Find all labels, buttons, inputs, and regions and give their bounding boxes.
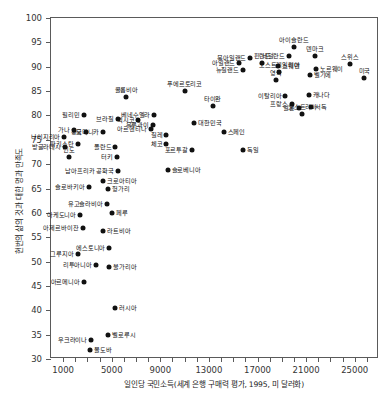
data-point — [93, 262, 98, 267]
data-point — [113, 305, 118, 310]
x-tick-label: 9000 — [150, 365, 172, 375]
point-label: 벨기에 — [314, 72, 332, 78]
x-axis-title: 일인당 국민소득(세계 은행 구매력 평가, 1995, 미 달러화) — [124, 378, 304, 389]
point-label: 체코 — [151, 141, 163, 147]
point-label: 베네수엘라 — [121, 112, 150, 118]
x-tick — [343, 357, 344, 362]
y-tick — [46, 262, 51, 263]
chart-root: 현번의 삶의 것과 대한 명과 만족도 일인당 국민소득(세계 은행 구매력 평… — [0, 0, 391, 403]
point-label: 푸에르토리코 — [167, 81, 202, 87]
point-label: 뉴질랜드 — [216, 67, 239, 73]
x-tick — [221, 357, 222, 362]
x-tick — [197, 357, 198, 362]
point-label: 캐나다 — [313, 92, 331, 98]
point-label: 아르메니아 — [51, 279, 80, 285]
x-tick — [160, 357, 161, 362]
point-label: 에스토니아 — [76, 245, 105, 251]
point-label: 영국 — [270, 70, 282, 76]
data-point — [107, 265, 112, 270]
x-tick — [233, 357, 234, 362]
data-point — [300, 112, 305, 117]
x-tick — [318, 357, 319, 362]
point-label: 미국 — [359, 68, 371, 74]
y-tick-label: 30 — [31, 354, 42, 364]
point-label: 우루과이 — [126, 122, 149, 128]
data-point — [81, 113, 86, 118]
data-point — [347, 62, 352, 67]
data-point — [283, 93, 288, 98]
y-tick-label: 85 — [31, 86, 42, 96]
data-point — [362, 76, 367, 81]
y-tick-label: 100 — [26, 13, 42, 23]
x-tick-label: 17000 — [244, 365, 271, 375]
point-label: 폴란드 — [94, 144, 112, 150]
point-label: 독일 — [247, 146, 259, 152]
point-label: 유고슬라비아 — [68, 201, 103, 207]
x-tick — [124, 357, 125, 362]
y-tick-label: 45 — [31, 281, 42, 291]
point-label: 필리민 — [62, 112, 80, 118]
y-tick-label: 80 — [31, 110, 42, 120]
data-point — [152, 113, 157, 118]
y-tick — [46, 359, 51, 360]
x-tick — [185, 357, 186, 362]
data-point — [164, 132, 169, 137]
x-tick — [63, 357, 64, 362]
point-label: 덴마크 — [306, 46, 324, 52]
point-label: 라트비아 — [107, 228, 130, 234]
data-point — [80, 226, 85, 231]
point-label: 벨로루시 — [112, 332, 135, 338]
point-label: 터키 — [101, 154, 113, 160]
x-tick — [270, 357, 271, 362]
x-tick-label: 5000 — [101, 365, 123, 375]
point-label: 도미니카 — [76, 128, 99, 134]
data-point — [306, 92, 311, 97]
y-tick-label: 55 — [31, 232, 42, 242]
data-point — [124, 95, 129, 100]
x-tick — [75, 357, 76, 362]
y-axis-title: 현번의 삶의 것과 대한 명과 만족도 — [13, 148, 24, 254]
data-point — [114, 154, 119, 159]
data-point — [75, 252, 80, 257]
x-tick — [367, 357, 368, 362]
point-label: 리투아니아 — [63, 262, 92, 268]
x-tick — [112, 357, 113, 362]
data-point — [189, 147, 194, 152]
data-point — [104, 202, 109, 207]
data-point — [291, 45, 296, 50]
point-label: 슬로바키아 — [55, 184, 84, 190]
point-label: 헝가리 — [112, 186, 130, 192]
point-label: 그루지아 — [50, 251, 73, 257]
point-label: 인도 — [63, 147, 75, 153]
x-tick — [245, 357, 246, 362]
data-point — [101, 129, 106, 134]
y-tick — [46, 115, 51, 116]
y-tick — [46, 67, 51, 68]
y-tick — [46, 18, 51, 19]
y-tick — [46, 42, 51, 43]
data-point — [87, 348, 92, 353]
point-label: 칠레 — [151, 132, 163, 138]
x-tick — [306, 357, 307, 362]
point-label: 오스트리아 — [288, 104, 317, 110]
y-tick-label: 60 — [31, 208, 42, 218]
point-label: 아이슬란드 — [279, 37, 308, 43]
data-point — [210, 103, 215, 108]
point-label: 크로아티아 — [107, 178, 136, 184]
data-point — [78, 212, 83, 217]
plot-area: 1009590858075706560555045403530 10005000… — [50, 17, 378, 358]
data-point — [307, 72, 312, 77]
x-tick — [282, 357, 283, 362]
x-tick — [330, 357, 331, 362]
y-tick — [46, 91, 51, 92]
y-tick-label: 35 — [31, 330, 42, 340]
data-point — [151, 123, 156, 128]
point-label: 콜롬비아 — [115, 87, 138, 93]
point-label: 우크라이나 — [58, 336, 87, 342]
y-tick — [46, 286, 51, 287]
point-label: 오스트레일리아 — [259, 61, 300, 67]
data-point — [182, 89, 187, 94]
point-label: 아케도니아 — [47, 212, 76, 218]
x-tick — [209, 357, 210, 362]
point-label: 불가리아 — [113, 264, 136, 270]
